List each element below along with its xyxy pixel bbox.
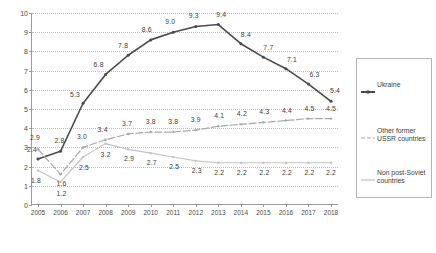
- data-point-label: 3.9: [191, 117, 201, 124]
- series-marker: [330, 100, 333, 103]
- series-marker: [194, 25, 197, 28]
- series-marker: [285, 162, 287, 164]
- data-point-label: 2.7: [147, 160, 157, 167]
- series-marker: [104, 73, 107, 76]
- y-tick-label: 2: [24, 163, 28, 170]
- data-point-label: 2.9: [124, 156, 134, 163]
- series-marker: [37, 157, 40, 160]
- x-tick-label: 2007: [76, 210, 90, 217]
- data-point-label: 2.2: [214, 169, 224, 176]
- data-point-label: 1.8: [31, 178, 41, 185]
- series-marker: [284, 67, 287, 70]
- legend-swatch-icon: [361, 82, 375, 90]
- legend-item[interactable]: Non post-Soviet countries: [361, 169, 431, 186]
- series-marker: [127, 148, 129, 150]
- data-point-label: 5.3: [70, 92, 80, 99]
- legend-item[interactable]: Other former USSR countries: [361, 127, 431, 144]
- legend-label: Other former USSR countries: [377, 127, 431, 144]
- series-marker: [307, 117, 309, 119]
- data-point-label: 9.0: [165, 19, 175, 26]
- series-marker: [149, 38, 152, 41]
- data-point-label: 6.8: [94, 62, 104, 69]
- data-point-label: 1.2: [57, 191, 67, 198]
- data-point-label: 3.8: [168, 119, 178, 126]
- data-point-label: 8.6: [142, 26, 152, 33]
- x-tick-label: 2012: [189, 210, 203, 217]
- data-point-label: 8.4: [241, 31, 251, 38]
- data-point-label: 9.4: [216, 11, 226, 18]
- legend-swatch-icon: [361, 128, 375, 136]
- data-point-label: 2.2: [259, 169, 269, 176]
- series-marker: [262, 56, 265, 59]
- series-marker: [217, 162, 219, 164]
- data-point-label: 2.9: [30, 135, 40, 142]
- x-tick-label: 2016: [279, 210, 293, 217]
- x-tick-label: 2005: [31, 210, 45, 217]
- plot-area: 012345678910 200520062007200820092010201…: [32, 13, 338, 204]
- series-marker: [149, 152, 151, 154]
- legend-item[interactable]: Ukraine: [361, 81, 431, 90]
- chart-page: 012345678910 200520062007200820092010201…: [0, 0, 436, 253]
- series-marker: [195, 129, 197, 131]
- plot-frame: 012345678910 200520062007200820092010201…: [31, 13, 338, 205]
- data-point-label: 2.2: [282, 169, 292, 176]
- data-point-label: 4.3: [259, 109, 269, 116]
- series-marker: [127, 133, 129, 135]
- data-point-label: 2.5: [79, 165, 89, 172]
- data-point-label: 3.0: [77, 134, 87, 141]
- series-marker: [82, 156, 84, 158]
- series-marker: [217, 125, 219, 127]
- data-point-label: 2.5: [169, 164, 179, 171]
- data-point-label: 3.2: [101, 151, 111, 158]
- x-tick-label: 2017: [301, 210, 315, 217]
- data-point-label: 4.4: [282, 107, 292, 114]
- series-marker: [104, 139, 106, 141]
- data-point-label: 2.2: [304, 169, 314, 176]
- y-tick-label: 10: [20, 10, 28, 17]
- series-marker: [240, 123, 242, 125]
- data-point-label: 4.2: [237, 111, 247, 118]
- data-point-label: 2.8: [55, 138, 65, 145]
- y-tick-label: 7: [24, 67, 28, 74]
- series-lines: [32, 13, 339, 205]
- series-marker: [127, 54, 130, 57]
- series-marker: [262, 162, 264, 164]
- series-marker: [37, 148, 39, 150]
- data-point-label: 4.1: [214, 113, 224, 120]
- data-point-label: 7.1: [287, 56, 297, 63]
- series-marker: [262, 121, 264, 123]
- series-marker: [104, 142, 106, 144]
- series-marker: [330, 162, 332, 164]
- chart-legend: UkraineOther former USSR countriesNon po…: [356, 58, 432, 198]
- series-marker: [37, 169, 39, 171]
- data-point-label: 2.2: [237, 169, 247, 176]
- series-marker: [330, 117, 332, 119]
- x-tick-label: 2011: [166, 210, 180, 217]
- y-tick-mark: [29, 205, 32, 206]
- x-tick-label: 2010: [143, 210, 157, 217]
- x-tick-label: 2013: [211, 210, 225, 217]
- y-tick-label: 9: [24, 29, 28, 36]
- data-point-label: 2.2: [326, 169, 336, 176]
- x-tick-label: 2006: [53, 210, 67, 217]
- data-point-label: 7.7: [263, 45, 273, 52]
- series-marker: [217, 23, 220, 26]
- series-marker: [172, 31, 175, 34]
- series-marker: [149, 131, 151, 133]
- data-point-label: 6.3: [309, 72, 319, 79]
- series-marker: [59, 173, 61, 175]
- series-marker: [307, 83, 310, 86]
- data-point-label: 4.5: [304, 105, 314, 112]
- legend-label: Ukraine: [377, 81, 400, 89]
- series-marker: [82, 102, 85, 105]
- legend-label: Non post-Soviet countries: [377, 169, 431, 186]
- x-tick-label: 2014: [234, 210, 248, 217]
- legend-swatch-icon: [361, 170, 375, 178]
- data-point-label: 3.7: [122, 121, 132, 128]
- series-marker: [172, 131, 174, 133]
- data-point-label: 7.8: [118, 43, 128, 50]
- data-point-label: 5.4: [330, 88, 340, 95]
- series-marker: [82, 146, 84, 148]
- series-marker: [285, 119, 287, 121]
- series-marker: [239, 42, 242, 45]
